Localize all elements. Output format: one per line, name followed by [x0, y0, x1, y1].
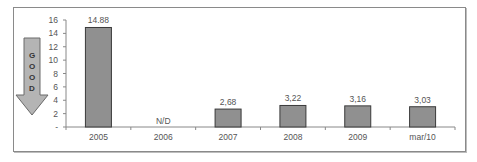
y-tick-label: 8: [53, 69, 58, 79]
bar-chart: G O O D -246810121416 200520062007200820…: [0, 0, 477, 162]
y-tick-label: 4: [53, 95, 58, 105]
arrow-letter: D: [29, 84, 35, 93]
arrow-letter: G: [29, 51, 35, 60]
x-category-label: 2007: [219, 132, 238, 142]
bar: [410, 107, 436, 127]
y-tick-label: 2: [53, 109, 58, 119]
bar: [345, 106, 371, 127]
x-category-label: 2006: [154, 132, 173, 142]
data-label: N/D: [156, 116, 171, 126]
good-down-arrow-icon: G O O D: [16, 38, 48, 115]
x-category-label: mar/10: [409, 132, 436, 142]
x-category-label: 2005: [89, 132, 108, 142]
data-label: 3,22: [285, 93, 302, 103]
y-tick-label: 12: [49, 42, 59, 52]
y-axis: -246810121416: [49, 15, 66, 132]
data-label: 3,03: [414, 95, 431, 105]
x-axis: 20052006200720082009mar/10: [66, 127, 455, 142]
bars: 14.88N/D2,683,223,163,03: [85, 15, 435, 127]
bar: [85, 27, 111, 127]
x-category-label: 2008: [283, 132, 302, 142]
arrow-letter: O: [29, 62, 35, 71]
y-tick-label: -: [55, 122, 58, 132]
y-tick-label: 14: [49, 28, 59, 38]
bar: [280, 105, 306, 127]
arrow-letter: O: [29, 73, 35, 82]
y-tick-label: 6: [53, 82, 58, 92]
bar: [215, 109, 241, 127]
y-tick-label: 10: [49, 55, 59, 65]
data-label: 2,68: [220, 97, 237, 107]
x-category-label: 2009: [348, 132, 367, 142]
data-label: 14.88: [88, 15, 110, 25]
y-tick-label: 16: [49, 15, 59, 25]
data-label: 3,16: [349, 94, 366, 104]
